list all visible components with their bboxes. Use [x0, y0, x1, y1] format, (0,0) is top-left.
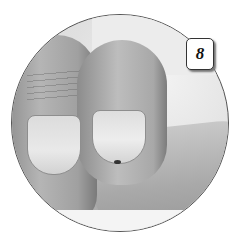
foreground-white — [12, 210, 229, 232]
nail-spot — [114, 160, 121, 164]
knuckle-wrinkles — [27, 70, 82, 100]
figure-number-badge: 8 — [186, 38, 214, 70]
fingernail-left — [27, 115, 81, 175]
fingernail-right — [92, 110, 146, 164]
